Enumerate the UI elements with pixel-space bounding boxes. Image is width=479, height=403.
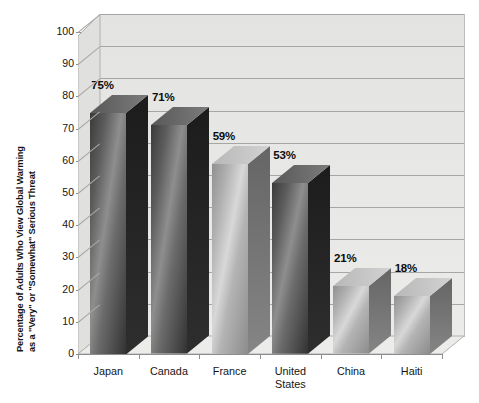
bar-canada: [151, 125, 187, 354]
bar-3d-body: [394, 278, 452, 356]
gridline: [100, 46, 464, 47]
y-axis-tick-label: 100: [48, 26, 74, 37]
bar-chart: Percentage of Adults Who View Global War…: [0, 0, 479, 403]
y-axis-title-line-2: as a "Very" or "Somewhat" Serious Threat: [27, 171, 37, 352]
bar-3d-body: [333, 268, 391, 356]
bar-haiti: [394, 296, 430, 354]
bar-france: [212, 164, 248, 354]
x-axis-tick-mark: [199, 354, 200, 359]
y-axis-tick-label: 60: [48, 155, 74, 166]
bar-3d-body: [212, 146, 270, 356]
bar-value-label: 18%: [395, 262, 417, 274]
y-axis-tick-label: 90: [48, 58, 74, 69]
y-axis-tick-label: 70: [48, 123, 74, 134]
bar-value-label: 53%: [273, 149, 295, 161]
y-axis-tick-label: 20: [48, 284, 74, 295]
y-axis-tick-label: 0: [48, 348, 74, 359]
y-axis-tick-label: 40: [48, 219, 74, 230]
bar-united-states: [272, 183, 308, 354]
bar-3d-body: [151, 107, 209, 356]
bar-value-label: 75%: [91, 79, 113, 91]
y-axis-tick-label: 30: [48, 251, 74, 262]
x-axis-tick-mark: [321, 354, 322, 359]
y-axis-tick-label: 50: [48, 187, 74, 198]
bar-3d-body: [272, 165, 330, 356]
x-axis-category-label: France: [199, 365, 260, 378]
x-axis-tick-mark: [78, 354, 79, 359]
bar-japan: [90, 113, 126, 355]
x-axis-tick-mark: [381, 354, 382, 359]
gridline: [100, 14, 464, 15]
x-axis-category-label: Canada: [139, 365, 200, 378]
bar-china: [333, 286, 369, 354]
x-axis-tick-mark: [442, 354, 443, 359]
y-axis-depth-connector: [78, 14, 101, 33]
y-axis-tick-label: 10: [48, 316, 74, 327]
x-axis-category-label: Japan: [78, 365, 139, 378]
x-axis-category-label: Haiti: [381, 365, 442, 378]
x-axis-category-label: China: [321, 365, 382, 378]
gridline: [100, 78, 464, 79]
bar-value-label: 21%: [334, 252, 356, 264]
x-axis-tick-mark: [260, 354, 261, 359]
y-axis-title-line-1: Percentage of Adults Who View Global War…: [15, 146, 25, 352]
y-axis-depth-connector: [78, 46, 101, 65]
plot-area: 75%71%59%53%21%18%: [78, 14, 464, 354]
bar-3d-body: [90, 95, 148, 357]
y-axis-title: Percentage of Adults Who View Global War…: [14, 52, 48, 352]
y-axis-tick-label: 80: [48, 90, 74, 101]
y-axis-tick-labels: 0102030405060708090100: [46, 0, 74, 403]
x-axis-tick-mark: [139, 354, 140, 359]
bar-value-label: 71%: [152, 91, 174, 103]
bar-value-label: 59%: [213, 130, 235, 142]
x-axis-category-label: United States: [260, 365, 321, 391]
